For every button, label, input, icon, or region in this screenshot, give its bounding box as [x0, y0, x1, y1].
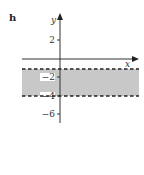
y-axis-label: y [50, 15, 57, 25]
y-tick-label-2: 2 [49, 35, 55, 45]
y-tick-label-minus-2: −2 [42, 72, 55, 82]
y-axis-arrow-icon [57, 13, 63, 20]
y-tick-label-minus-4: −4 [42, 91, 56, 101]
inequality-graph: 2 −2 −4 −6 y x [0, 0, 144, 175]
y-tick-label-minus-6: −6 [42, 109, 56, 119]
x-axis-label: x [125, 59, 130, 69]
shaded-region [22, 69, 139, 96]
x-axis-arrow-icon [132, 56, 139, 62]
